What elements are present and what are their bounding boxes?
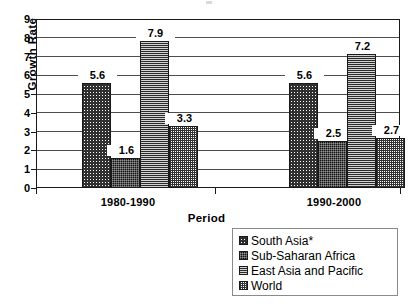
legend-swatch-icon: [239, 281, 248, 290]
legend-item: East Asia and Pacific: [239, 263, 397, 278]
legend: South Asia*Sub-Saharan AfricaEast Asia a…: [232, 228, 398, 296]
bar: [82, 83, 111, 188]
legend-item-label: Sub-Saharan Africa: [251, 250, 355, 262]
legend-swatch-icon: [239, 236, 248, 245]
bar-chart: 9876543210 Growth Rate 5.61.67.93.35.62.…: [0, 0, 413, 307]
y-axis-tick: [31, 19, 36, 20]
bar: [111, 158, 140, 188]
x-axis-tick: [36, 188, 37, 194]
legend-item: Sub-Saharan Africa: [239, 248, 397, 263]
legend-item: World: [239, 278, 397, 293]
y-axis-tick-label: 1: [10, 164, 30, 175]
legend-item-label: East Asia and Pacific: [251, 265, 363, 277]
y-axis-tick: [31, 169, 36, 170]
legend-swatch-icon: [239, 251, 248, 260]
y-axis-tick: [31, 57, 36, 58]
y-axis-tick: [31, 188, 36, 189]
bar: [318, 141, 347, 188]
bar: [169, 126, 198, 188]
y-axis-tick-label: 3: [10, 126, 30, 137]
y-axis-tick: [31, 38, 36, 39]
bar-value-label: 2.7: [372, 125, 411, 136]
scan-artifact: [206, 1, 212, 4]
x-axis-title: Period: [0, 212, 413, 224]
y-axis-tick: [31, 94, 36, 95]
bar-value-label: 5.6: [78, 70, 117, 81]
bars-layer: 5.61.67.93.35.62.57.22.7: [37, 20, 398, 188]
y-axis-tick: [31, 113, 36, 114]
bar-value-label: 5.6: [285, 70, 324, 81]
y-axis-tick: [31, 150, 36, 151]
bar-value-label: 3.3: [165, 113, 204, 124]
x-axis-tick: [215, 188, 216, 194]
y-axis-tick: [31, 132, 36, 133]
legend-item: South Asia*: [239, 233, 397, 248]
bar-value-label: 7.2: [343, 41, 382, 52]
legend-item-label: World: [251, 280, 282, 292]
y-axis-tick: [31, 75, 36, 76]
x-axis-category-label: 1980-1990: [83, 196, 173, 208]
x-axis-tick: [400, 188, 401, 194]
x-axis-category-label: 1990-2000: [289, 196, 379, 208]
y-axis-tick-label: 2: [10, 145, 30, 156]
bar-value-label: 7.9: [136, 28, 175, 39]
y-axis-tick-label: 0: [10, 183, 30, 194]
legend-item-label: South Asia*: [251, 235, 313, 247]
legend-swatch-icon: [239, 266, 248, 275]
bar: [347, 54, 376, 188]
bar: [376, 138, 405, 188]
